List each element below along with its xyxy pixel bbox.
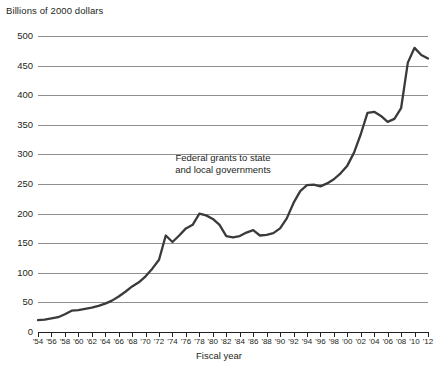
- x-tick-label: '94: [302, 338, 312, 346]
- y-tick-label: 300: [3, 149, 33, 159]
- y-tick-label: 200: [3, 209, 33, 219]
- series-annotation: Federal grants to state and local govern…: [148, 152, 298, 176]
- x-tick-label: '10: [409, 338, 419, 346]
- y-tick-label: 350: [3, 120, 33, 130]
- x-tick-label: '74: [167, 338, 177, 346]
- x-tick-label: '98: [329, 338, 339, 346]
- x-tick-label: '04: [369, 338, 379, 346]
- x-tick-label: '02: [356, 338, 366, 346]
- x-tick-label: '82: [221, 338, 231, 346]
- y-axis-title: Billions of 2000 dollars: [6, 5, 103, 16]
- series-annotation-line2: and local governments: [148, 164, 298, 176]
- x-tick-label: '96: [315, 338, 325, 346]
- x-tick-label: '00: [342, 338, 352, 346]
- plot-area: [38, 36, 428, 332]
- x-tick-label: '64: [100, 338, 110, 346]
- x-tick-label: '86: [248, 338, 258, 346]
- y-axis-tick-labels: 050100150200250300350400450500: [0, 36, 33, 332]
- x-tick-label: '78: [194, 338, 204, 346]
- x-tick-label: '60: [73, 338, 83, 346]
- x-tick-label: '88: [261, 338, 271, 346]
- x-tick-label: '90: [275, 338, 285, 346]
- x-tick-label: '56: [46, 338, 56, 346]
- x-tick-label: '58: [60, 338, 70, 346]
- x-tick-label: '54: [33, 338, 43, 346]
- y-tick-label: 250: [3, 179, 33, 189]
- y-tick-label: 400: [3, 90, 33, 100]
- x-tick-label: '84: [235, 338, 245, 346]
- data-series-line: [38, 36, 428, 332]
- x-axis-tick-labels: '54'56'58'60'62'64'66'68'70'72'74'76'78'…: [0, 338, 438, 350]
- x-tick-label: '80: [208, 338, 218, 346]
- y-tick-label: 0: [3, 327, 33, 337]
- series-path: [38, 48, 428, 320]
- y-tick-label: 100: [3, 268, 33, 278]
- x-tick-label: '72: [154, 338, 164, 346]
- x-tick-label: '62: [87, 338, 97, 346]
- x-tick-label: '12: [423, 338, 433, 346]
- x-tick-label: '06: [382, 338, 392, 346]
- series-annotation-line1: Federal grants to state: [148, 152, 298, 164]
- x-tick-label: '66: [113, 338, 123, 346]
- x-tick-label: '92: [288, 338, 298, 346]
- y-tick-label: 50: [3, 297, 33, 307]
- chart-figure: Billions of 2000 dollars 050100150200250…: [0, 0, 438, 366]
- x-tick-label: '08: [396, 338, 406, 346]
- x-tick-label: '68: [127, 338, 137, 346]
- x-tick-label: '76: [181, 338, 191, 346]
- y-tick-label: 150: [3, 238, 33, 248]
- y-tick-label: 500: [3, 31, 33, 41]
- y-tick-label: 450: [3, 61, 33, 71]
- x-tick-label: '70: [140, 338, 150, 346]
- x-axis-title: Fiscal year: [0, 350, 438, 361]
